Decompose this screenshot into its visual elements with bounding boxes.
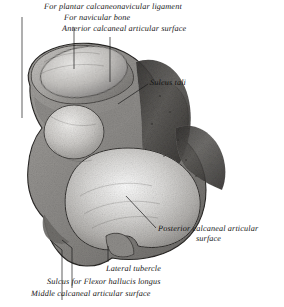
label-posterior-calcaneal-articular-surface-line1: Posterior calcaneal articular [158, 224, 258, 234]
label-lateral-tubercle: Lateral tubercle [106, 264, 161, 274]
label-middle-calcaneal-articular-surface: Middle calcaneal articular surface [31, 289, 150, 299]
label-anterior-calcaneal-articular-surface: Anterior calcaneal articular surface [62, 24, 186, 34]
label-navicular-bone: For navicular bone [64, 13, 130, 23]
label-plantar-calcaneonavicular-ligament: For plantar calcaneonavicular ligament [44, 2, 182, 12]
label-sulcus-for-flexor-hallucis-longus: Sulcus for Flexor hallucis longus [47, 277, 161, 287]
label-sulcus-tali: Sulcus tali [150, 78, 186, 88]
middle-articular-facet [44, 105, 104, 159]
anatomical-figure: For plantar calcaneonavicular ligament F… [0, 0, 284, 307]
talus-bone-illustration [0, 0, 284, 307]
label-posterior-calcaneal-articular-surface-line2: surface [196, 234, 221, 244]
